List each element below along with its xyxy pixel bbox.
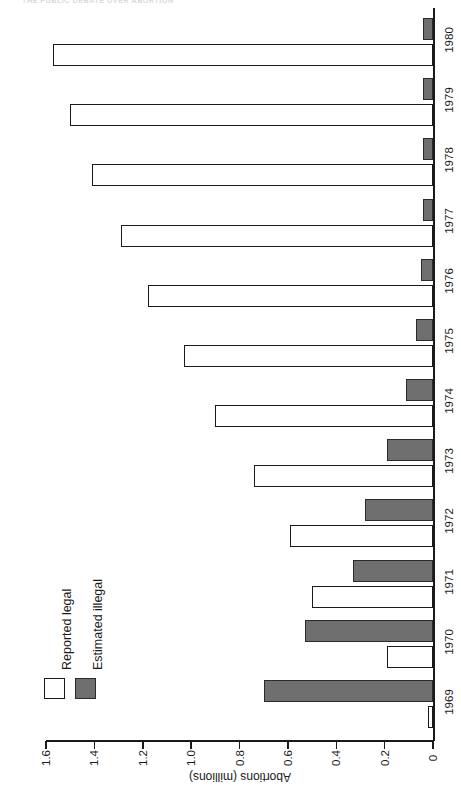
category-label-1980: 1980 (443, 17, 455, 63)
bar-estimated-illegal-1980 (423, 18, 433, 40)
bar-reported-legal-1973 (254, 465, 433, 487)
value-tick-label-1.2: 1.2 (137, 738, 149, 778)
category-label-1973: 1973 (443, 438, 455, 484)
bar-reported-legal-1979 (70, 104, 433, 126)
bar-estimated-illegal-1972 (365, 499, 433, 521)
bar-estimated-illegal-1974 (406, 379, 433, 401)
bar-reported-legal-1974 (215, 405, 433, 427)
bar-estimated-illegal-1976 (421, 259, 433, 281)
category-label-1971: 1971 (443, 559, 455, 605)
category-label-1975: 1975 (443, 318, 455, 364)
bar-reported-legal-1970 (387, 646, 433, 668)
bar-reported-legal-1977 (121, 225, 433, 247)
bar-chart: 00.20.40.60.81.01.21.41.6 Abortions (mil… (0, 0, 461, 804)
category-label-1978: 1978 (443, 137, 455, 183)
bar-estimated-illegal-1971 (353, 560, 433, 582)
value-tick-label-0: 0 (427, 738, 439, 778)
value-tick-label-0.2: 0.2 (379, 738, 391, 778)
bar-estimated-illegal-1977 (423, 199, 433, 221)
chart-legend: Reported legal Estimated illegal (44, 548, 114, 708)
category-label-1974: 1974 (443, 378, 455, 424)
category-label-1976: 1976 (443, 258, 455, 304)
bar-estimated-illegal-1969 (264, 680, 433, 702)
bar-estimated-illegal-1970 (305, 620, 433, 642)
bar-estimated-illegal-1979 (423, 78, 433, 100)
category-label-1979: 1979 (443, 77, 455, 123)
legend-label-reported-legal: Reported legal (60, 589, 74, 670)
bar-reported-legal-1971 (312, 586, 433, 608)
bar-estimated-illegal-1973 (387, 439, 433, 461)
legend-swatch-reported-legal (44, 678, 65, 699)
category-label-1972: 1972 (443, 498, 455, 544)
legend-swatch-estimated-illegal (75, 678, 96, 699)
bar-estimated-illegal-1975 (416, 319, 433, 341)
bar-reported-legal-1976 (148, 285, 433, 307)
category-label-1970: 1970 (443, 619, 455, 665)
value-tick-label-0.4: 0.4 (330, 738, 342, 778)
category-label-1969: 1969 (443, 679, 455, 725)
bar-reported-legal-1969 (428, 706, 433, 728)
bar-reported-legal-1978 (92, 164, 433, 186)
bar-reported-legal-1972 (290, 525, 433, 547)
value-tick-label-1.4: 1.4 (88, 738, 100, 778)
value-axis-title: Abortions (millions) (180, 770, 300, 784)
bar-estimated-illegal-1978 (423, 138, 433, 160)
bar-reported-legal-1980 (53, 44, 433, 66)
bar-reported-legal-1975 (184, 345, 433, 367)
legend-label-estimated-illegal: Estimated illegal (91, 579, 105, 670)
category-axis-line (433, 8, 435, 741)
category-label-1977: 1977 (443, 198, 455, 244)
value-tick-label-1.6: 1.6 (40, 738, 52, 778)
